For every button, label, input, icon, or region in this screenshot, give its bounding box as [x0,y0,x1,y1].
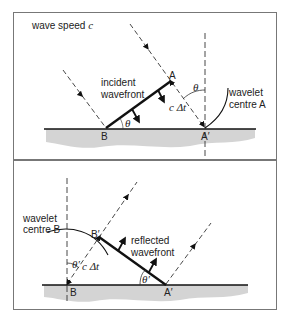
angle-theta-prime-label: θ′ [72,258,80,270]
centre-A-label: centre A [229,99,266,110]
point-B-label: B [70,287,77,298]
c-delta-t-label: c Δt [82,260,100,272]
point-A-label: A [169,70,176,81]
wavelet-label: wavelet [22,213,57,224]
top-panel: wave speed c incident wavefront A B A′ θ… [14,13,277,160]
reflected-label: reflected [131,235,169,246]
point-B-label: B [101,131,108,142]
wavelet-label: wavelet [228,87,263,98]
wavefront-label: wavefront [130,247,175,258]
c-delta-t-label: c Δt [169,101,187,113]
bottom-panel: wavelet centre B B′ B A′ θ′ θ′ c Δt refl… [14,161,277,310]
point-A-prime-label: A′ [164,287,173,298]
wavefront-label: wavefront [100,89,145,100]
angle-theta-prime-label-A: θ′ [142,273,150,285]
point-B-prime-label: B′ [91,229,100,240]
angle-theta-label-B: θ [125,117,131,129]
angle-theta-label: θ [193,81,199,93]
incident-label: incident [101,77,136,88]
centre-B-label: centre B [23,224,61,235]
reflection-diagram: wave speed c incident wavefront A B A′ θ… [0,0,287,317]
ray-arrow-icon [80,94,81,95]
point-A-prime-label: A′ [201,131,210,142]
wave-speed-label: wave speed c [31,19,93,31]
